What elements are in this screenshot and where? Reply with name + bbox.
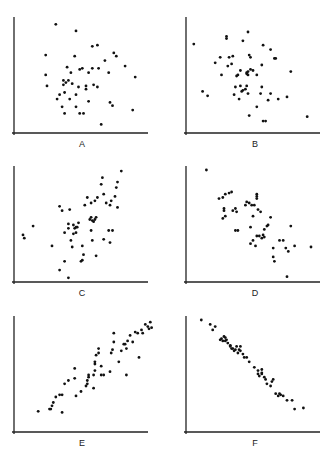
data-point <box>61 209 64 212</box>
data-point <box>72 232 75 235</box>
data-point <box>67 223 70 226</box>
data-point <box>91 45 94 48</box>
data-point <box>75 395 78 398</box>
data-point <box>105 202 108 205</box>
data-point <box>102 374 105 377</box>
data-point <box>111 348 114 351</box>
data-point <box>244 204 247 207</box>
data-point <box>243 356 246 359</box>
data-point <box>92 387 95 390</box>
data-point <box>272 378 275 381</box>
data-point <box>247 92 250 95</box>
data-point <box>252 239 255 242</box>
data-point <box>253 366 256 369</box>
data-point <box>248 114 251 117</box>
data-point <box>96 196 99 199</box>
data-point <box>65 81 68 84</box>
data-point <box>116 181 119 184</box>
data-point <box>110 352 113 355</box>
panel-label: B <box>252 139 258 149</box>
data-point <box>272 247 275 250</box>
data-points <box>22 170 123 279</box>
data-point <box>109 101 112 104</box>
panel-label: F <box>252 438 258 448</box>
data-point <box>211 329 214 332</box>
scatter-panel-d: D <box>184 166 320 298</box>
data-point <box>75 105 78 108</box>
scatter-plot-grid: A B C D E F <box>0 0 328 455</box>
data-point <box>80 390 83 393</box>
data-point <box>91 239 94 242</box>
data-point <box>255 105 258 108</box>
data-point <box>70 239 73 242</box>
data-point <box>284 247 287 250</box>
data-point <box>287 250 290 253</box>
data-point <box>277 98 280 101</box>
data-point <box>32 225 35 228</box>
data-point <box>247 70 250 73</box>
data-point <box>264 378 267 381</box>
data-point <box>267 99 270 102</box>
data-point <box>247 74 250 77</box>
data-point <box>77 221 80 224</box>
data-point <box>267 224 270 227</box>
data-point <box>22 234 25 237</box>
data-point <box>239 349 242 352</box>
data-point <box>235 210 238 213</box>
data-point <box>258 235 261 238</box>
data-points <box>44 23 136 126</box>
data-point <box>289 225 292 228</box>
data-point <box>68 98 71 101</box>
data-point <box>264 120 267 123</box>
data-point <box>129 334 132 337</box>
panel-label: A <box>79 139 85 149</box>
data-point <box>112 52 115 55</box>
data-point <box>206 94 209 97</box>
data-point <box>260 86 263 89</box>
data-point <box>224 215 227 218</box>
data-point <box>54 396 57 399</box>
data-point <box>86 379 89 382</box>
data-point <box>248 360 251 363</box>
data-point <box>56 98 59 101</box>
data-point <box>67 227 70 230</box>
data-point <box>82 253 85 256</box>
data-point <box>85 88 88 91</box>
data-point <box>110 199 113 202</box>
data-point <box>242 39 245 42</box>
data-point <box>72 224 75 227</box>
data-points <box>192 31 308 123</box>
data-point <box>293 408 296 411</box>
data-point <box>58 393 61 396</box>
data-point <box>254 245 257 248</box>
data-point <box>237 229 240 232</box>
panel-label: D <box>252 288 259 298</box>
data-point <box>44 74 47 77</box>
data-point <box>58 269 61 272</box>
data-point <box>90 229 93 232</box>
data-points <box>200 319 305 411</box>
data-point <box>116 206 119 209</box>
data-point <box>71 82 74 85</box>
data-point <box>97 352 100 355</box>
data-points <box>37 321 153 414</box>
data-point <box>109 204 112 207</box>
data-point <box>225 338 228 341</box>
data-point <box>104 59 107 62</box>
data-point <box>291 399 294 402</box>
data-point <box>97 67 100 70</box>
data-points <box>205 169 312 279</box>
data-point <box>62 83 65 86</box>
data-point <box>200 319 203 322</box>
data-point <box>279 393 282 396</box>
data-point <box>124 343 127 346</box>
data-point <box>68 208 71 211</box>
data-point <box>73 55 76 58</box>
data-point <box>274 392 277 395</box>
data-point <box>259 210 262 213</box>
data-point <box>266 382 269 385</box>
data-point <box>248 202 251 205</box>
data-point <box>44 54 47 57</box>
data-point <box>82 112 85 115</box>
data-point <box>249 56 252 59</box>
